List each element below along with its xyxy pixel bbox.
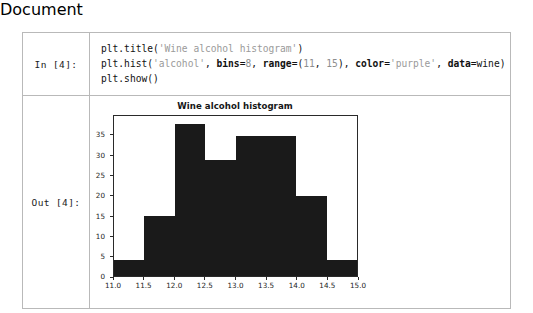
x-axis: 11.011.512.012.513.013.514.014.515.0	[113, 115, 358, 277]
y-axis-tick-label: 5	[100, 253, 110, 260]
code-token: 'alcohol'	[153, 58, 205, 69]
y-axis-tick-label: 15	[96, 213, 110, 220]
x-axis-tick: 11.5	[136, 277, 152, 289]
x-axis-tick-label: 11.0	[105, 282, 121, 289]
x-axis-tick-mark	[296, 277, 297, 280]
code-token: color	[355, 58, 384, 69]
y-axis-tick-label: 30	[96, 152, 110, 159]
x-axis-tick: 13.5	[258, 277, 274, 289]
code-line: plt.show()	[101, 71, 505, 86]
x-axis-tick-label: 12.5	[197, 282, 213, 289]
chart-title: Wine alcohol histogram	[110, 101, 360, 111]
code-token: =(	[292, 58, 304, 69]
code-token: )	[297, 43, 303, 54]
code-token: 11	[303, 58, 315, 69]
code-token: plt.show()	[101, 73, 159, 84]
code-token: =wine)	[471, 58, 506, 69]
x-axis-tick-label: 14.0	[289, 282, 305, 289]
code-token: range	[263, 58, 292, 69]
y-axis-tick-label: 20	[96, 192, 110, 199]
x-axis-tick: 14.5	[319, 277, 335, 289]
code-token: data	[448, 58, 471, 69]
code-token: 'purple'	[390, 58, 436, 69]
x-axis-tick: 12.5	[197, 277, 213, 289]
notebook-input-row: In [4]: plt.title('Wine alcohol histogra…	[23, 33, 510, 96]
code-line: plt.title('Wine alcohol histogram')	[101, 41, 505, 56]
code-token: ),	[338, 58, 355, 69]
code-token: plt.title(	[101, 43, 159, 54]
output-cell: Wine alcohol histogram 05101520253035 11…	[90, 96, 510, 308]
code-source[interactable]: plt.title('Wine alcohol histogram')plt.h…	[90, 33, 515, 93]
code-token: bins	[217, 58, 240, 69]
code-token: ,	[436, 58, 448, 69]
x-axis-tick-mark	[174, 277, 175, 280]
y-axis-tick-label: 25	[96, 172, 110, 179]
x-axis-tick-mark	[204, 277, 205, 280]
x-axis-tick-mark	[143, 277, 144, 280]
histogram-figure: Wine alcohol histogram 05101520253035 11…	[90, 99, 382, 306]
x-axis-tick-mark	[357, 277, 358, 280]
figure-wrap: Wine alcohol histogram 05101520253035 11…	[90, 96, 510, 308]
x-axis-tick-mark	[112, 277, 113, 280]
code-line: plt.hist('alcohol', bins=8, range=(11, 1…	[101, 56, 505, 71]
x-axis-tick-label: 15.0	[350, 282, 366, 289]
y-axis-tick-label: 35	[96, 131, 110, 138]
output-prompt-label: Out [4]:	[23, 96, 90, 308]
input-prompt-label: In [4]:	[23, 33, 90, 95]
y-axis-tick-label: 10	[96, 233, 110, 240]
code-token: ,	[315, 58, 327, 69]
x-axis-tick-label: 14.5	[319, 282, 335, 289]
x-axis-tick-label: 13.5	[258, 282, 274, 289]
x-axis-tick: 11.0	[105, 277, 121, 289]
x-axis-tick-label: 13.0	[227, 282, 243, 289]
notebook-cell-table: In [4]: plt.title('Wine alcohol histogra…	[22, 32, 511, 309]
x-axis-tick-mark	[327, 277, 328, 280]
x-axis-tick: 12.0	[166, 277, 182, 289]
x-axis-tick-label: 12.0	[166, 282, 182, 289]
page: In [4]: plt.title('Wine alcohol histogra…	[0, 19, 533, 313]
x-axis-tick: 15.0	[350, 277, 366, 289]
code-token: ,	[251, 58, 263, 69]
x-axis-tick: 14.0	[289, 277, 305, 289]
x-axis-tick-mark	[266, 277, 267, 280]
x-axis-tick-mark	[235, 277, 236, 280]
code-token: ,	[205, 58, 217, 69]
code-token: 'Wine alcohol histogram'	[159, 43, 298, 54]
notebook-output-row: Out [4]: Wine alcohol histogram 05101520…	[23, 96, 510, 308]
x-axis-tick: 13.0	[227, 277, 243, 289]
x-axis-tick-label: 11.5	[136, 282, 152, 289]
code-cell[interactable]: plt.title('Wine alcohol histogram')plt.h…	[90, 33, 515, 95]
code-token: plt.hist(	[101, 58, 153, 69]
code-token: 15	[326, 58, 338, 69]
